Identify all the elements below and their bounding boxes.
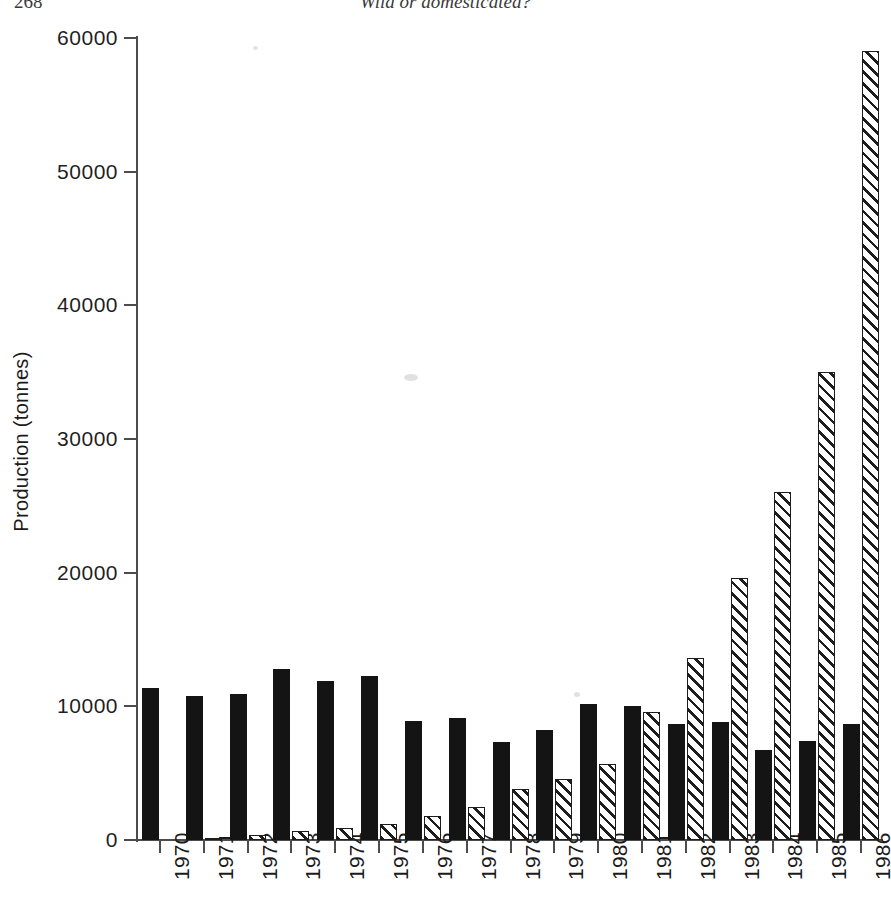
x-axis-tick-label: 1975 <box>389 858 413 880</box>
bar-chart-figure: Production (tonnes) 01000020000300004000… <box>0 0 891 909</box>
x-axis-tick <box>290 841 292 853</box>
bar-wild-1984 <box>755 750 772 840</box>
x-axis-tick <box>553 841 555 853</box>
bar-wild-1972 <box>230 694 247 840</box>
bar-cultured-1977 <box>468 807 485 840</box>
bar-wild-1976 <box>405 721 422 840</box>
bar-cultured-1974 <box>336 828 353 840</box>
scan-speck <box>253 46 258 50</box>
bar-wild-1980 <box>580 704 597 840</box>
x-axis-tick-label: 1984 <box>783 858 807 880</box>
x-axis-tick-label: 1986 <box>871 858 891 880</box>
y-axis-tick <box>124 37 137 39</box>
y-axis-tick <box>124 171 137 173</box>
x-axis-tick-label: 1972 <box>258 858 282 880</box>
bar-wild-1979 <box>536 730 553 840</box>
y-axis-tick <box>124 839 137 841</box>
x-axis-tick-label: 1980 <box>608 858 632 880</box>
x-axis-tick-label: 1974 <box>345 858 369 880</box>
x-axis-tick <box>816 841 818 853</box>
x-axis-tick <box>510 841 512 853</box>
x-axis-tick <box>685 841 687 853</box>
y-axis-tick <box>124 705 137 707</box>
bar-wild-1974 <box>317 681 334 840</box>
bar-wild-1970 <box>142 688 159 840</box>
y-axis-tick <box>124 438 137 440</box>
bar-cultured-1981 <box>643 712 660 840</box>
y-axis-title: Production (tonnes) <box>10 282 33 602</box>
x-axis-tick <box>729 841 731 853</box>
bar-cultured-1980 <box>599 764 616 840</box>
y-axis-tick-label: 40000 <box>57 293 118 317</box>
y-axis-tick <box>124 572 137 574</box>
plot-area <box>138 38 883 840</box>
bar-cultured-1984 <box>774 492 791 840</box>
y-axis-tick-label: 60000 <box>57 26 118 50</box>
x-axis-tick-label: 1985 <box>827 858 851 880</box>
bar-cultured-1979 <box>555 779 572 840</box>
y-axis-tick-label: 10000 <box>57 694 118 718</box>
bar-cultured-1975 <box>380 824 397 840</box>
bar-cultured-1982 <box>687 658 704 840</box>
x-axis-tick <box>378 841 380 853</box>
x-axis-tick-label: 1982 <box>696 858 720 880</box>
bar-wild-1971 <box>186 696 203 840</box>
x-axis-tick <box>860 841 862 853</box>
x-axis-tick <box>597 841 599 853</box>
x-axis-tick-label: 1971 <box>214 858 238 880</box>
x-axis-tick-label: 1983 <box>740 858 764 880</box>
bar-cultured-1976 <box>424 816 441 840</box>
bar-wild-1975 <box>361 676 378 840</box>
x-axis-tick <box>247 841 249 853</box>
bar-cultured-1972 <box>249 835 266 840</box>
scan-speck <box>574 692 580 697</box>
x-axis-tick <box>422 841 424 853</box>
bar-cultured-1971 <box>205 838 222 840</box>
bar-wild-1978 <box>493 742 510 840</box>
x-axis-tick-label: 1981 <box>652 858 676 880</box>
bar-cultured-1985 <box>818 372 835 840</box>
x-axis-tick-label: 1973 <box>301 858 325 880</box>
bar-wild-1981 <box>624 706 641 840</box>
y-axis-tick <box>124 304 137 306</box>
x-axis-tick-label: 1979 <box>564 858 588 880</box>
x-axis-tick-label: 1978 <box>521 858 545 880</box>
y-axis-tick-label: 30000 <box>57 427 118 451</box>
scan-speck <box>404 374 418 381</box>
bar-wild-1986 <box>843 724 860 840</box>
x-axis-tick-label: 1976 <box>433 858 457 880</box>
bar-wild-1977 <box>449 718 466 840</box>
x-axis-tick <box>641 841 643 853</box>
x-axis-tick <box>203 841 205 853</box>
x-axis-tick <box>334 841 336 853</box>
x-axis-tick <box>772 841 774 853</box>
x-axis-tick-label: 1977 <box>477 858 501 880</box>
bar-wild-1982 <box>668 724 685 840</box>
x-axis-tick <box>159 841 161 853</box>
bar-cultured-1983 <box>731 578 748 840</box>
bar-cultured-1978 <box>512 789 529 840</box>
bar-cultured-1973 <box>292 831 309 840</box>
y-axis-tick-label: 20000 <box>57 561 118 585</box>
x-axis-tick <box>466 841 468 853</box>
y-axis-tick-label: 0 <box>106 828 118 852</box>
bar-cultured-1986 <box>862 51 879 840</box>
x-axis-tick-label: 1970 <box>170 858 194 880</box>
bar-wild-1983 <box>712 722 729 840</box>
bar-wild-1973 <box>273 669 290 840</box>
bar-wild-1985 <box>799 741 816 840</box>
y-axis-tick-label: 50000 <box>57 160 118 184</box>
